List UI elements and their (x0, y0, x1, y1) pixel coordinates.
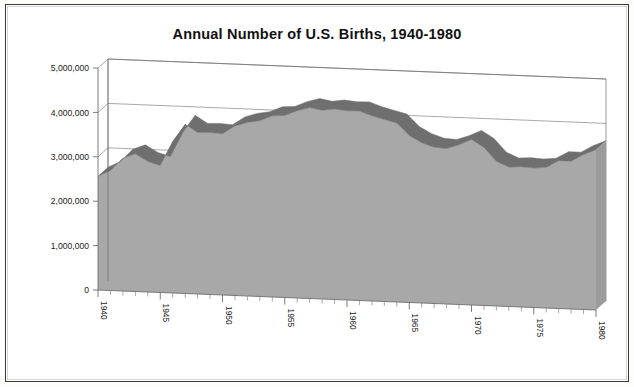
x-axis-tick-label: 1955 (286, 309, 296, 328)
x-axis-tick-label: 1970 (473, 316, 483, 335)
x-axis-tick-label: 1980 (597, 321, 607, 340)
y-axis-tick-labels: 01,000,0002,000,0003,000,0004,000,0005,0… (51, 63, 89, 295)
y-axis-tick-label: 3,000,000 (51, 152, 89, 162)
screenshot-page: Annual Number of U.S. Births, 1940-1980 … (0, 0, 634, 387)
x-axis-tick-label: 1945 (161, 304, 171, 323)
x-axis-tick-label: 1960 (348, 311, 358, 330)
births-area-chart: 01,000,0002,000,0003,000,0004,000,0005,0… (0, 0, 634, 387)
x-axis-tick-label: 1940 (99, 301, 109, 320)
y-axis-tick-label: 0 (84, 285, 89, 295)
y-axis-tick-label: 1,000,000 (51, 241, 89, 251)
y-axis-tick-label: 2,000,000 (51, 196, 89, 206)
x-axis-tick-label: 1965 (410, 314, 420, 333)
y-axis-tick-label: 4,000,000 (51, 108, 89, 118)
y-axis-tick-label: 5,000,000 (51, 63, 89, 73)
x-axis-tick-label: 1975 (535, 319, 545, 338)
x-axis-tick-label: 1950 (224, 306, 234, 325)
